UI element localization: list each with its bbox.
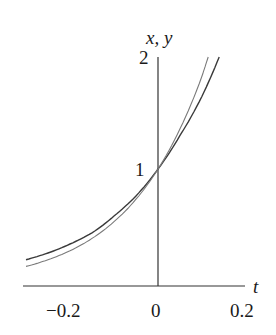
chart: x, y 2 1 t −0.2 0 0.2: [0, 0, 276, 335]
x-tick-0: 0: [151, 300, 161, 321]
x-axis-label: t: [253, 276, 259, 297]
axes: [23, 57, 245, 286]
y-tick-1: 1: [135, 159, 145, 180]
curve-x: [26, 57, 219, 260]
x-tick-0.2: 0.2: [230, 300, 254, 321]
curve-y: [26, 57, 208, 266]
x-tick-neg-0.2: −0.2: [46, 300, 80, 321]
y-tick-2: 2: [139, 47, 149, 68]
y-axis-label: x, y: [145, 27, 173, 48]
curves: [26, 57, 219, 266]
